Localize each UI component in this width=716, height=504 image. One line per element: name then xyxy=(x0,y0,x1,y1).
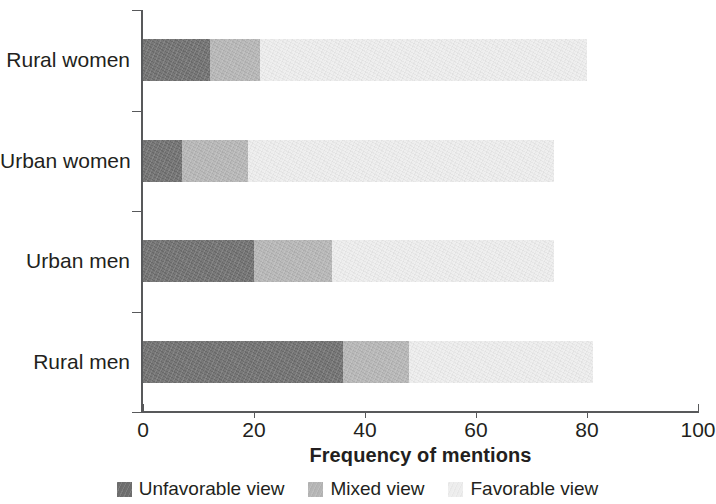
bar-segment xyxy=(143,140,182,182)
legend-item[interactable]: Unfavorable view xyxy=(117,478,285,500)
bar-segment xyxy=(143,39,210,81)
x-axis-tick-label: 20 xyxy=(242,418,265,442)
bar-segment xyxy=(332,240,554,282)
legend-label: Unfavorable view xyxy=(139,478,285,500)
bar-segment xyxy=(260,39,587,81)
legend-item[interactable]: Favorable view xyxy=(448,478,598,500)
x-axis-tick xyxy=(476,411,477,418)
x-axis-title: Frequency of mentions xyxy=(143,444,698,467)
x-axis-tick-label: 80 xyxy=(575,418,598,442)
chart-legend: Unfavorable viewMixed viewFavorable view xyxy=(0,478,715,500)
legend-swatch-icon xyxy=(308,482,323,497)
bar-segment xyxy=(143,341,343,383)
legend-swatch-icon xyxy=(448,482,463,497)
bar-row xyxy=(0,341,715,383)
x-axis-tick-label: 40 xyxy=(353,418,376,442)
legend-item[interactable]: Mixed view xyxy=(308,478,424,500)
bar-segment xyxy=(248,140,553,182)
legend-label: Mixed view xyxy=(330,478,424,500)
bar-row xyxy=(0,240,715,282)
bar-segment xyxy=(182,140,249,182)
bar-segment xyxy=(210,39,260,81)
legend-label: Favorable view xyxy=(470,478,598,500)
bar-segment xyxy=(343,341,410,383)
x-axis-tick xyxy=(143,404,144,413)
x-axis-tick-label: 60 xyxy=(464,418,487,442)
bar-row xyxy=(0,140,715,182)
x-axis-tick-label: 0 xyxy=(137,418,149,442)
y-axis-tick xyxy=(132,10,142,11)
x-axis-tick-label: 100 xyxy=(680,418,715,442)
bar-row xyxy=(0,39,715,81)
x-axis-tick xyxy=(365,411,366,418)
bar-segment xyxy=(143,240,254,282)
x-axis-tick xyxy=(587,411,588,418)
x-axis-tick xyxy=(698,404,699,413)
x-axis-tick xyxy=(254,411,255,418)
y-axis-tick xyxy=(132,211,142,212)
bar-segment xyxy=(254,240,332,282)
y-axis-tick xyxy=(132,111,142,112)
bar-segment xyxy=(409,341,592,383)
legend-swatch-icon xyxy=(117,482,132,497)
x-axis-line xyxy=(141,411,699,413)
y-axis-tick xyxy=(132,412,142,413)
y-axis-tick xyxy=(132,312,142,313)
